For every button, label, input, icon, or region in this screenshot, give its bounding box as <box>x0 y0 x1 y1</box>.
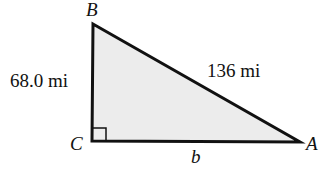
side-label-bc: 68.0 mi <box>10 71 68 90</box>
triangle-abc <box>92 24 300 142</box>
vertex-label-b: B <box>86 0 98 19</box>
vertex-label-c: C <box>70 134 83 153</box>
side-label-ac: b <box>191 147 201 166</box>
side-label-ab: 136 mi <box>207 61 260 80</box>
vertex-label-a: A <box>306 134 318 153</box>
